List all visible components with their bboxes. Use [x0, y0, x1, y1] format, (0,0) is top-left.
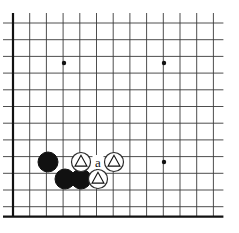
star-point-upper-left-icon	[62, 61, 66, 65]
go-board[interactable]: a	[0, 0, 239, 233]
point-label-a: a	[95, 155, 101, 170]
go-diagram: a	[0, 0, 239, 233]
black-stone[interactable]	[38, 152, 58, 172]
star-point-upper-right-icon	[162, 61, 166, 65]
star-point-lower-right-icon	[162, 160, 166, 164]
